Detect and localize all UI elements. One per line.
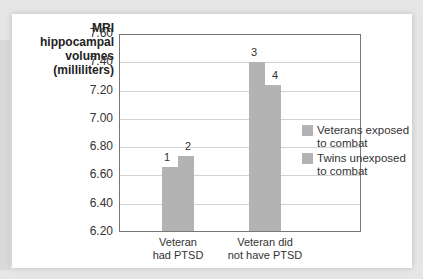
bar-label: 4 (267, 69, 283, 81)
gridline (120, 204, 360, 205)
bar-label: 1 (159, 151, 175, 163)
x-category-label: Veteran didnot have PTSD (215, 236, 315, 262)
bar (265, 85, 281, 231)
y-tick-label: 7.60 (73, 26, 113, 40)
background-strip (0, 40, 10, 270)
y-tick-label: 7.20 (73, 83, 113, 97)
x-category-label: Veteranhad PTSD (128, 236, 228, 262)
bar (162, 167, 178, 231)
bar-label: 2 (180, 140, 196, 152)
y-tick-label: 6.60 (73, 167, 113, 181)
gridline (120, 62, 360, 63)
legend-label: Veterans exposedto combat (317, 124, 409, 150)
y-tick-label: 6.80 (73, 139, 113, 153)
y-tick-label: 6.40 (73, 196, 113, 210)
bar-label: 3 (246, 46, 262, 58)
bar (178, 156, 194, 231)
legend-label: Twins unexposedto combat (317, 152, 406, 178)
y-tick-label: 6.20 (73, 224, 113, 238)
gridline (120, 119, 360, 120)
bar (249, 62, 265, 231)
legend-swatch (302, 153, 313, 164)
y-tick-label: 7.40 (73, 54, 113, 68)
gridline (120, 91, 360, 92)
legend-swatch (302, 125, 313, 136)
y-tick-label: 7.00 (73, 111, 113, 125)
